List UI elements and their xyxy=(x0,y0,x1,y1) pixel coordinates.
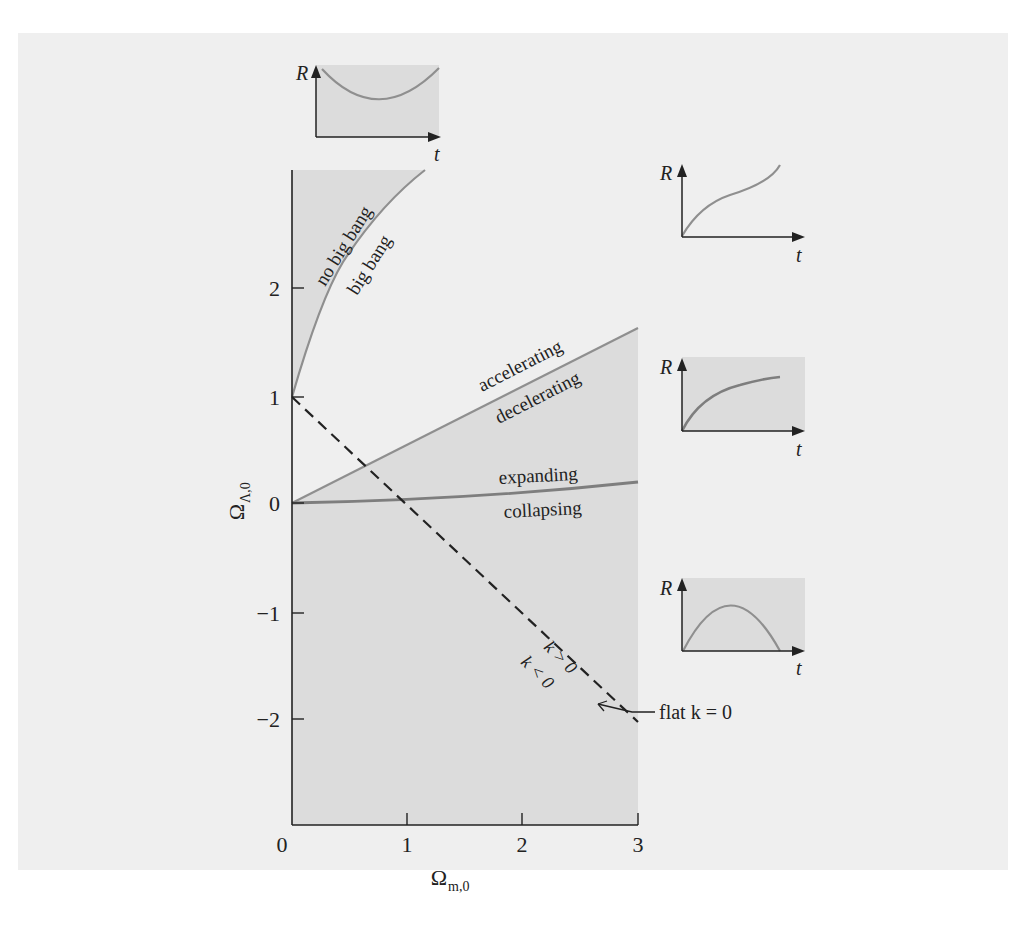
x-axis-title-subscript: m,0 xyxy=(448,879,469,894)
inset-r-label: R xyxy=(659,162,672,184)
x-tick-label: 3 xyxy=(633,832,644,857)
y-tick-label: −1 xyxy=(257,601,280,626)
y-tick-label: −2 xyxy=(257,707,280,732)
x-tick-label: 0 xyxy=(277,832,288,857)
inset-collapsing: R t xyxy=(659,577,805,679)
inset-r-label: R xyxy=(295,62,308,84)
inset-t-label: t xyxy=(796,657,802,679)
inset-decelerating: R t xyxy=(659,356,805,460)
y-axis-title: Ω xyxy=(224,504,249,520)
arrow-icon xyxy=(677,164,687,177)
expanding-label: expanding xyxy=(498,463,579,488)
y-axis-title-subscript: Λ,0 xyxy=(238,482,253,503)
flat-k0-label: flat k = 0 xyxy=(659,701,732,723)
inset-t-label: t xyxy=(796,244,802,266)
x-tick-label: 2 xyxy=(517,832,528,857)
y-tick-label: 1 xyxy=(269,385,280,410)
inset-t-label: t xyxy=(434,143,440,165)
arrow-icon xyxy=(792,232,805,242)
x-axis-title: Ω xyxy=(431,865,447,890)
inset-no-big-bang: R t xyxy=(295,62,441,165)
inset-accelerating: R t xyxy=(659,162,805,266)
inset-r-label: R xyxy=(659,356,672,378)
y-tick-label: 2 xyxy=(269,276,280,301)
x-tick-label: 1 xyxy=(402,832,413,857)
cosmology-diagram: 2 1 0 −1 −2 0 1 2 3 Ω m,0 Ω Λ,0 no big b… xyxy=(0,0,1022,940)
collapsing-label: collapsing xyxy=(503,497,583,522)
collapsing-region xyxy=(292,482,638,825)
inset-t-label: t xyxy=(796,438,802,460)
inset-r-label: R xyxy=(659,577,672,599)
y-tick-label: 0 xyxy=(269,491,280,516)
